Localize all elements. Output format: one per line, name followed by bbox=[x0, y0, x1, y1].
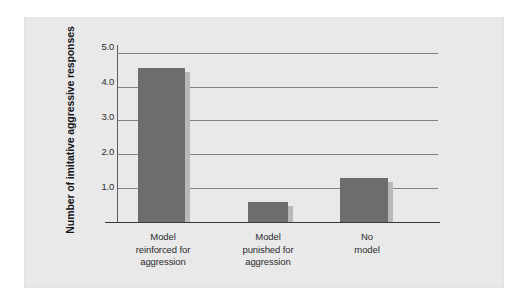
bar-2 bbox=[340, 178, 388, 222]
x-category-label-line: aggression bbox=[213, 256, 323, 269]
bar-1 bbox=[248, 202, 288, 222]
x-category-label-line: model bbox=[312, 244, 422, 257]
y-tick-label-1: 1.0 bbox=[86, 181, 114, 192]
bar-0 bbox=[138, 68, 185, 222]
y-tick-label-4: 4.0 bbox=[86, 76, 114, 87]
x-category-label-line: Model bbox=[213, 231, 323, 244]
y-axis-title: Number of imitative aggressive responses bbox=[62, 25, 78, 235]
x-category-label-0: Modelreinforced foraggression bbox=[108, 231, 218, 269]
y-tick-label-3: 3.0 bbox=[86, 111, 114, 122]
x-category-label-2: Nomodel bbox=[312, 231, 422, 256]
x-category-label-line: reinforced for bbox=[108, 244, 218, 257]
x-category-label-line: Model bbox=[108, 231, 218, 244]
x-axis-line bbox=[105, 222, 440, 223]
x-category-label-line: punished for bbox=[213, 244, 323, 257]
y-tick-label-5: 5.0 bbox=[86, 41, 114, 52]
figure-root: Number of imitative aggressive responses… bbox=[0, 0, 525, 304]
plot-area bbox=[118, 46, 438, 222]
gridline-5.0 bbox=[118, 53, 438, 54]
x-category-label-line: aggression bbox=[108, 256, 218, 269]
y-tick-label-2: 2.0 bbox=[86, 146, 114, 157]
x-category-label-line: No bbox=[312, 231, 422, 244]
x-category-label-1: Modelpunished foraggression bbox=[213, 231, 323, 269]
